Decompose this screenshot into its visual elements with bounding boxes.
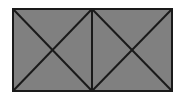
crossed-boxes-diagram <box>0 0 183 96</box>
